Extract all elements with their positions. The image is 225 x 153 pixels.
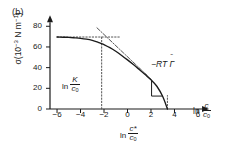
tangent-dash-dot-line [97, 28, 151, 79]
isotherm-curve [57, 37, 167, 109]
figure-panel-b: (b) σ(10−3 N m−1) ln c c0 ln K c0 ln c* … [0, 0, 225, 153]
x-axis-arrowhead [202, 106, 209, 112]
plot-canvas [0, 0, 225, 153]
y-axis-arrowhead [47, 15, 53, 22]
